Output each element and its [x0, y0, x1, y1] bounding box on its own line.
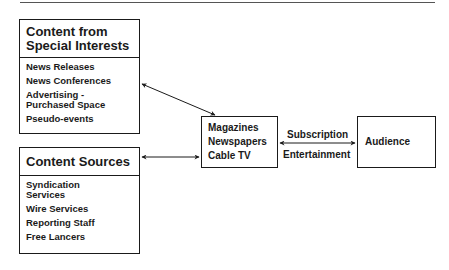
- arrow-special-interests-media: [142, 84, 215, 115]
- connector-arrows: [0, 0, 449, 270]
